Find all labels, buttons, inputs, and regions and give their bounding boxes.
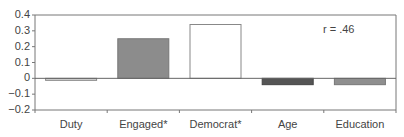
y-tick-label: −0.1 <box>2 87 30 99</box>
x-category-label: Democrat* <box>180 118 252 130</box>
y-tick-label: 0 <box>2 71 30 83</box>
x-category-label: Education <box>324 118 396 130</box>
x-category-label: Engaged* <box>107 118 179 130</box>
correlation-annotation: r = .46 <box>323 23 355 35</box>
y-tick-label: 0.2 <box>2 40 30 52</box>
y-tick-label: 0.4 <box>2 8 30 20</box>
y-tick-label: 0.1 <box>2 56 30 68</box>
bar-education <box>334 78 385 84</box>
bar-chart: 0.40.30.20.10−0.1−0.2 DutyEngaged*Democr… <box>0 0 404 137</box>
bar-age <box>262 78 313 84</box>
bar-engaged <box>118 39 169 79</box>
bar-democrat <box>190 25 241 79</box>
y-tick-label: 0.3 <box>2 24 30 36</box>
x-category-label: Duty <box>35 118 107 130</box>
y-tick-label: −0.2 <box>2 103 30 115</box>
x-category-label: Age <box>252 118 324 130</box>
plot-area <box>0 0 404 137</box>
